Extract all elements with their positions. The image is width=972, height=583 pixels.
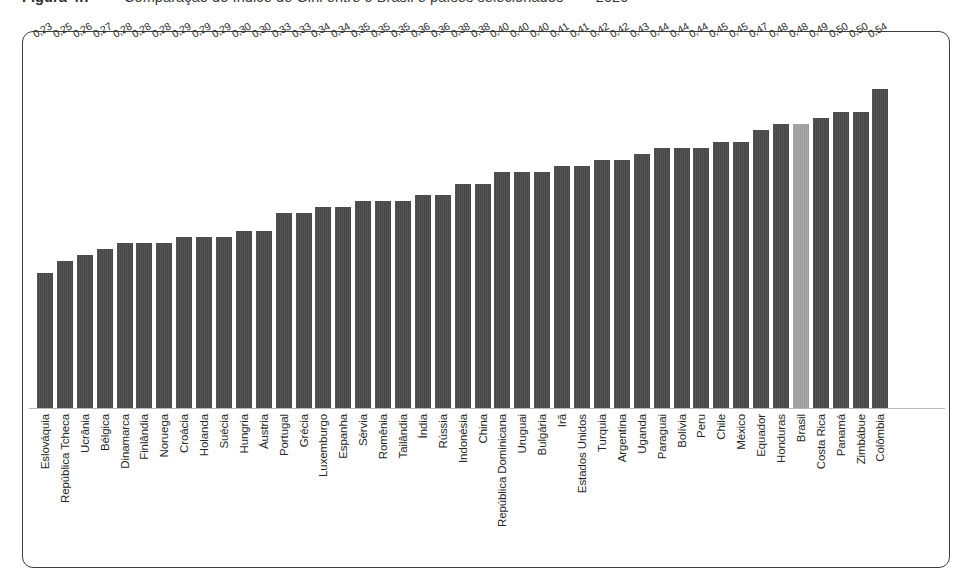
bar-rect[interactable]: 0,44 <box>674 148 690 409</box>
bar-finlândia[interactable]: 0,28 <box>136 37 152 409</box>
bar-paraguai[interactable]: 0,44 <box>654 37 670 409</box>
bar-rect[interactable]: 0,43 <box>634 154 650 409</box>
bar-panamá[interactable]: 0,50 <box>833 37 849 409</box>
bar-rect[interactable]: 0,23 <box>37 273 53 409</box>
bar-romênia[interactable]: 0,35 <box>375 37 391 409</box>
bar-noruega[interactable]: 0,28 <box>156 37 172 409</box>
bar-rect[interactable]: 0,35 <box>355 201 371 409</box>
bar-rect[interactable]: 0,30 <box>236 231 252 409</box>
bar-rect[interactable]: 0,36 <box>435 195 451 409</box>
bar-luxemburgo[interactable]: 0,34 <box>315 37 331 409</box>
category-label: Indonésia <box>457 414 469 463</box>
bar-rect[interactable]: 0,49 <box>813 118 829 409</box>
bar-uganda[interactable]: 0,43 <box>634 37 650 409</box>
bar-bélgica[interactable]: 0,27 <box>97 37 113 409</box>
bar-rect[interactable]: 0,40 <box>514 172 530 409</box>
bar-zimbábue[interactable]: 0,50 <box>853 37 869 409</box>
bar-rect[interactable]: 0,25 <box>57 261 73 409</box>
bar-indonésia[interactable]: 0,38 <box>455 37 471 409</box>
bar-argentina[interactable]: 0,42 <box>614 37 630 409</box>
bar-rect[interactable]: 0,34 <box>335 207 351 409</box>
bar-méxico[interactable]: 0,45 <box>733 37 749 409</box>
category-label-col: Brasil <box>793 414 809 564</box>
bar-portugal[interactable]: 0,33 <box>276 37 292 409</box>
bar-áustria[interactable]: 0,30 <box>256 37 272 409</box>
category-label-col: Noruega <box>156 414 172 564</box>
category-label: Hungria <box>238 414 250 454</box>
bar-rect[interactable]: 0,54 <box>872 89 888 409</box>
bar-índia[interactable]: 0,36 <box>415 37 431 409</box>
bar-rect[interactable]: 0,38 <box>455 184 471 409</box>
bar-rect[interactable]: 0,28 <box>136 243 152 409</box>
bar-rect[interactable]: 0,50 <box>833 112 849 409</box>
category-label: Colômbia <box>874 414 886 462</box>
category-label: República Tcheca <box>59 414 71 503</box>
category-label-col: Honduras <box>773 414 789 564</box>
bar-value-label: 0,50 <box>826 20 849 40</box>
bar-rect[interactable]: 0,44 <box>654 148 670 409</box>
bar-china[interactable]: 0,38 <box>475 37 491 409</box>
bar-rect[interactable]: 0,45 <box>713 142 729 409</box>
bar-espanha[interactable]: 0,34 <box>335 37 351 409</box>
bar-rect[interactable]: 0,48 <box>773 124 789 409</box>
bar-rect[interactable]: 0,29 <box>176 237 192 409</box>
bar-brasil[interactable]: 0,48 <box>793 37 809 409</box>
bar-irã[interactable]: 0,41 <box>554 37 570 409</box>
bar-bulgária[interactable]: 0,40 <box>534 37 550 409</box>
bar-tailândia[interactable]: 0,35 <box>395 37 411 409</box>
bar-rect[interactable]: 0,27 <box>97 249 113 409</box>
bar-rect[interactable]: 0,44 <box>693 148 709 409</box>
bar-value-label: 0,43 <box>627 20 650 40</box>
bar-rect[interactable]: 0,42 <box>614 160 630 409</box>
bar-ucrânia[interactable]: 0,26 <box>77 37 93 409</box>
bar-rect[interactable]: 0,29 <box>216 237 232 409</box>
bar-dinamarca[interactable]: 0,28 <box>117 37 133 409</box>
bar-estados-unidos[interactable]: 0,41 <box>574 37 590 409</box>
bar-rect-highlight[interactable]: 0,48 <box>793 124 809 409</box>
bar-rect[interactable]: 0,30 <box>256 231 272 409</box>
category-label-col: Finlândia <box>136 414 152 564</box>
bar-peru[interactable]: 0,44 <box>693 37 709 409</box>
bar-turquia[interactable]: 0,42 <box>594 37 610 409</box>
bar-eslováquia[interactable]: 0,23 <box>37 37 53 409</box>
bar-rect[interactable]: 0,28 <box>117 243 133 409</box>
bar-rect[interactable]: 0,42 <box>594 160 610 409</box>
bar-suécia[interactable]: 0,29 <box>216 37 232 409</box>
figure-caption-dash: – <box>96 0 120 5</box>
bar-chile[interactable]: 0,45 <box>713 37 729 409</box>
bar-rect[interactable]: 0,41 <box>554 166 570 409</box>
bar-rect[interactable]: 0,35 <box>375 201 391 409</box>
bar-rect[interactable]: 0,33 <box>276 213 292 409</box>
category-label: Rússia <box>437 414 449 449</box>
bar-equador[interactable]: 0,47 <box>753 37 769 409</box>
bar-rect[interactable]: 0,41 <box>574 166 590 409</box>
bar-rect[interactable]: 0,33 <box>296 213 312 409</box>
bar-sérvia[interactable]: 0,35 <box>355 37 371 409</box>
bar-hungria[interactable]: 0,30 <box>236 37 252 409</box>
bar-rect[interactable]: 0,34 <box>315 207 331 409</box>
bar-bolívia[interactable]: 0,44 <box>674 37 690 409</box>
bar-grécia[interactable]: 0,33 <box>296 37 312 409</box>
bar-rect[interactable]: 0,28 <box>156 243 172 409</box>
bar-holanda[interactable]: 0,29 <box>196 37 212 409</box>
bar-uruguai[interactable]: 0,40 <box>514 37 530 409</box>
bar-rect[interactable]: 0,26 <box>77 255 93 409</box>
bar-rect[interactable]: 0,40 <box>494 172 510 409</box>
bar-croácia[interactable]: 0,29 <box>176 37 192 409</box>
bar-rect[interactable]: 0,45 <box>733 142 749 409</box>
bar-rússia[interactable]: 0,36 <box>435 37 451 409</box>
bar-rect[interactable]: 0,47 <box>753 130 769 409</box>
bar-república-tcheca[interactable]: 0,25 <box>57 37 73 409</box>
bar-rect[interactable]: 0,38 <box>475 184 491 409</box>
category-label-col: Croácia <box>176 414 192 564</box>
bar-honduras[interactable]: 0,48 <box>773 37 789 409</box>
bar-rect[interactable]: 0,36 <box>415 195 431 409</box>
bar-república-dominicana[interactable]: 0,40 <box>494 37 510 409</box>
bar-rect[interactable]: 0,35 <box>395 201 411 409</box>
bar-costa-rica[interactable]: 0,49 <box>813 37 829 409</box>
bar-rect[interactable]: 0,40 <box>534 172 550 409</box>
bar-rect[interactable]: 0,29 <box>196 237 212 409</box>
category-label: Uruguai <box>516 414 528 454</box>
bar-colômbia[interactable]: 0,54 <box>872 37 888 409</box>
bar-rect[interactable]: 0,50 <box>853 112 869 409</box>
